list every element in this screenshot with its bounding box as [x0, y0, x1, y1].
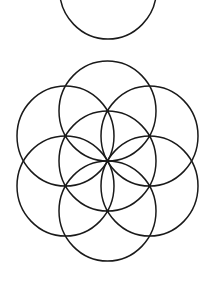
dot-upper-right [148, 134, 151, 137]
dot-lower-left [64, 184, 67, 187]
dot-upper-left [64, 134, 67, 137]
dot-lower-right [148, 184, 151, 187]
center-dot [106, 159, 109, 162]
dot-top [106, 109, 109, 112]
dot-bottom [106, 209, 109, 212]
background [0, 0, 209, 284]
seed-of-life-diagram [0, 0, 209, 284]
